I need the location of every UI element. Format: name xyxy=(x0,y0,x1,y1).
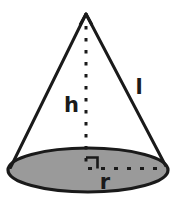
slant-height-label: l xyxy=(135,75,142,99)
cone-diagram: h l r xyxy=(0,0,178,208)
radius-label: r xyxy=(100,170,111,194)
height-label: h xyxy=(64,93,79,117)
cone-figure: h l r xyxy=(0,0,178,208)
